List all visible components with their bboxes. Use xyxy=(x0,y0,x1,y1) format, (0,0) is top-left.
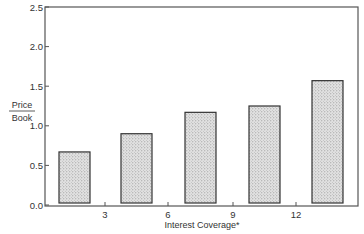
y-tick-label: 0.5 xyxy=(30,160,43,171)
x-axis-title: Interest Coverage* xyxy=(164,220,240,230)
x-axis: 36912 xyxy=(102,202,301,220)
y-axis-title: Price Book xyxy=(9,100,35,123)
bar xyxy=(185,112,216,203)
y-tick-label: 1.5 xyxy=(30,81,43,92)
y-tick-label: 2.5 xyxy=(30,2,43,13)
bar xyxy=(121,134,152,203)
bar-chart: 0.00.51.01.52.02.5 36912 Price Book Inte… xyxy=(0,0,364,234)
bar xyxy=(59,152,90,203)
bar xyxy=(312,81,343,203)
y-tick-label: 2.0 xyxy=(30,41,43,52)
y-tick-label: 0.0 xyxy=(30,200,43,211)
x-tick-label: 12 xyxy=(291,209,302,220)
x-tick-label: 9 xyxy=(230,209,235,220)
y-axis-title-numerator: Price xyxy=(12,100,33,110)
bar xyxy=(249,106,280,203)
x-tick-label: 3 xyxy=(102,209,107,220)
y-axis-title-denominator: Book xyxy=(12,113,33,123)
y-axis: 0.00.51.01.52.02.5 xyxy=(30,2,49,211)
bars xyxy=(59,81,343,203)
x-tick-label: 6 xyxy=(165,209,170,220)
